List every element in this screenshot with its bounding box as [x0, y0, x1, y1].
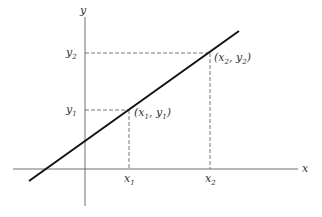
x1-label: x1: [124, 172, 135, 187]
y1-label: y1: [65, 103, 77, 118]
line-diagram: y x y2 y1 x1 x2 (x1, y1) (x2, y2): [0, 0, 322, 217]
point1-label: (x1, y1): [134, 106, 171, 121]
y-axis-label: y: [79, 4, 87, 17]
x-axis-label: x: [302, 162, 309, 175]
point2-label: (x2, y2): [214, 51, 251, 66]
y2-label: y2: [65, 46, 77, 61]
x2-label: x2: [205, 172, 216, 187]
